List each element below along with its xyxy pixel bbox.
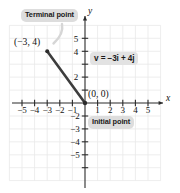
x-tick-label: 5 (143, 105, 153, 115)
y-tick-label: 2 (71, 72, 81, 82)
terminal-point-coordinate-label: (−3, 4) (14, 36, 40, 47)
x-tick-label: 3 (118, 105, 128, 115)
y-tick-label: −5 (68, 150, 82, 160)
callout-vector-equation: v = −3i + 4j (90, 52, 138, 65)
x-axis-label: x (166, 93, 170, 103)
y-tick-label: 4 (71, 47, 81, 57)
y-tick-label: −2 (68, 111, 82, 121)
x-tick-label: 1 (93, 105, 103, 115)
vector-figure: Terminal point Initial point v = −3i + 4… (0, 0, 180, 193)
terminal-point-dot (45, 49, 49, 53)
y-tick-label: −3 (68, 124, 82, 134)
y-axis-label: y (88, 6, 92, 16)
callout-initial-point: Initial point (88, 116, 134, 129)
initial-point-coordinate-label: (0, 0) (88, 88, 109, 99)
y-tick-label: 5 (71, 34, 81, 44)
x-tick-label: 2 (105, 105, 115, 115)
x-tick-label: 4 (130, 105, 140, 115)
callout-terminal-point: Terminal point (21, 9, 78, 22)
y-tick-label: −4 (68, 137, 82, 147)
initial-point-dot (83, 101, 87, 105)
